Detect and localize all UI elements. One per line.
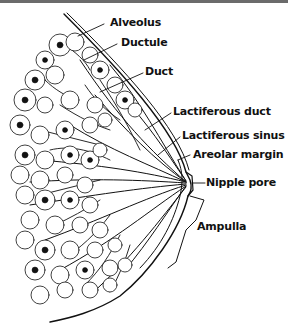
alveoli-clusters (10, 33, 142, 304)
label-duct: Duct (145, 66, 173, 78)
label-alveolus: Alveolus (110, 17, 161, 29)
leader-lactiferous-duct (145, 113, 171, 130)
label-lactiferous-sinus: Lactiferous sinus (182, 130, 285, 142)
label-ampulla: Ampulla (197, 221, 246, 233)
label-lactiferous-duct: Lactiferous duct (173, 106, 271, 118)
leader-alveolus (78, 24, 104, 36)
label-areolar-margin: Areolar margin (193, 149, 283, 161)
label-ductule: Ductule (121, 37, 167, 49)
label-nipple-pore: Nipple pore (206, 177, 276, 189)
lactiferous-ducts (30, 60, 186, 295)
